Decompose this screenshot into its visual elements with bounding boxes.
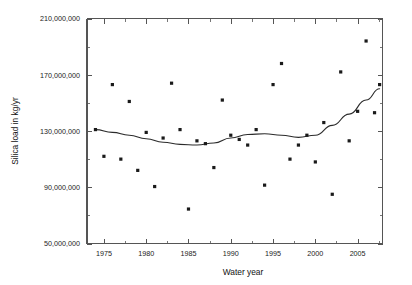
data-point-marker: [136, 169, 139, 172]
x-tick-label: 2000: [307, 249, 323, 258]
data-point-marker: [238, 138, 241, 141]
y-axis-title: Silica load in kg/yr: [10, 97, 20, 165]
data-point-marker: [229, 134, 232, 137]
x-tick-label: 1975: [96, 249, 112, 258]
data-point-marker: [246, 143, 249, 146]
y-tick-label: 170,000,000: [40, 71, 80, 80]
data-point-marker: [322, 121, 325, 124]
data-point-marker: [255, 128, 258, 131]
data-point-marker: [195, 139, 198, 142]
data-point-marker: [339, 70, 342, 73]
data-point-marker: [305, 134, 308, 137]
x-tick-label: 2005: [350, 249, 366, 258]
data-point-marker: [348, 139, 351, 142]
data-point-marker: [212, 166, 215, 169]
data-point-marker: [162, 136, 165, 139]
data-point-marker: [288, 158, 291, 161]
data-point-markers: [94, 39, 381, 210]
x-axis-title: Water year: [223, 267, 264, 277]
data-point-marker: [111, 83, 114, 86]
y-tick-label: 210,000,000: [40, 14, 80, 23]
data-point-marker: [271, 83, 274, 86]
data-point-marker: [356, 110, 359, 113]
data-point-marker: [170, 82, 173, 85]
x-axis-tick-labels: 1975198019851990199520002005: [96, 249, 366, 258]
axis-tick-marks: [87, 19, 383, 245]
data-point-marker: [297, 143, 300, 146]
data-point-marker: [119, 158, 122, 161]
chart-figure: 50,000,00090,000,000130,000,000170,000,0…: [0, 0, 412, 285]
data-point-marker: [221, 98, 224, 101]
x-tick-label: 1990: [223, 249, 239, 258]
lowess-trend-line: [95, 89, 379, 145]
data-point-marker: [263, 184, 266, 187]
data-point-marker: [378, 83, 381, 86]
data-point-marker: [187, 207, 190, 210]
x-tick-label: 1995: [265, 249, 281, 258]
data-point-marker: [204, 142, 207, 145]
y-tick-label: 50,000,000: [44, 239, 80, 248]
data-point-marker: [102, 155, 105, 158]
data-point-marker: [331, 193, 334, 196]
data-point-marker: [314, 160, 317, 163]
y-axis-tick-labels: 50,000,00090,000,000130,000,000170,000,0…: [40, 14, 80, 248]
data-point-marker: [153, 185, 156, 188]
y-tick-label: 90,000,000: [44, 183, 80, 192]
data-point-marker: [94, 128, 97, 131]
x-tick-label: 1985: [180, 249, 196, 258]
data-point-marker: [373, 111, 376, 114]
scatter-plot-canvas: 50,000,00090,000,000130,000,000170,000,0…: [0, 0, 412, 285]
data-point-marker: [280, 62, 283, 65]
data-point-marker: [364, 39, 367, 42]
data-point-marker: [145, 131, 148, 134]
y-tick-label: 130,000,000: [40, 127, 80, 136]
data-point-marker: [178, 128, 181, 131]
data-point-marker: [128, 100, 131, 103]
x-tick-label: 1980: [138, 249, 154, 258]
